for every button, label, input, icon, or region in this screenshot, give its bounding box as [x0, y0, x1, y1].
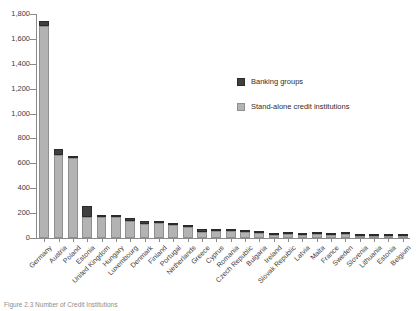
chart-legend: Banking groups Stand-alone credit instit…	[237, 78, 349, 128]
bar-column	[54, 149, 64, 238]
legend-item-banking-groups: Banking groups	[237, 78, 349, 86]
x-axis-tick	[173, 238, 174, 242]
bars-layer	[37, 14, 410, 238]
x-axis-tick	[87, 238, 88, 242]
y-axis-tick-label: 1,400	[2, 60, 30, 68]
bar-segment-banking-groups	[82, 206, 92, 217]
bar-segment-stand-alone	[39, 26, 49, 238]
bar-column	[111, 215, 121, 238]
y-axis-tick	[30, 238, 36, 239]
x-axis-tick	[102, 238, 103, 242]
x-axis-tick	[331, 238, 332, 242]
bar-column	[183, 225, 193, 238]
bar-column	[82, 206, 92, 238]
bar-segment-stand-alone	[140, 224, 150, 238]
x-axis-tick	[388, 238, 389, 242]
x-axis-tick	[145, 238, 146, 242]
x-axis-tick	[345, 238, 346, 242]
bar-segment-stand-alone	[183, 227, 193, 238]
bar-column	[197, 229, 207, 238]
x-axis-tick	[116, 238, 117, 242]
y-axis-tick	[30, 39, 36, 40]
bar-segment-stand-alone	[82, 217, 92, 238]
legend-item-stand-alone-credit-institutions: Stand-alone credit institutions	[237, 103, 349, 111]
y-axis-tick-label: 1,800	[2, 10, 30, 18]
x-axis-tick	[245, 238, 246, 242]
x-axis-tick	[44, 238, 45, 242]
x-axis-tick	[159, 238, 160, 242]
bar-column	[154, 221, 164, 238]
x-axis-tick	[317, 238, 318, 242]
y-axis-tick	[30, 138, 36, 139]
chart-root: 02004006008001,0001,2001,4001,6001,800 G…	[0, 0, 418, 311]
y-axis-labels: 02004006008001,0001,2001,4001,6001,800	[0, 0, 30, 311]
bar-column	[226, 229, 236, 238]
bar-segment-stand-alone	[68, 158, 78, 239]
x-axis-tick	[288, 238, 289, 242]
bar-column	[211, 229, 221, 238]
x-axis-tick	[130, 238, 131, 242]
bar-segment-stand-alone	[168, 225, 178, 238]
x-axis-tick	[259, 238, 260, 242]
bar-column	[39, 21, 49, 238]
bar-column	[68, 156, 78, 239]
y-axis-tick	[30, 64, 36, 65]
x-axis-tick	[202, 238, 203, 242]
x-axis-tick	[360, 238, 361, 242]
y-axis-tick-label: 800	[2, 134, 30, 142]
y-axis-tick-label: 600	[2, 159, 30, 167]
x-axis-tick	[73, 238, 74, 242]
y-axis-tick	[30, 114, 36, 115]
bar-column	[140, 221, 150, 238]
y-axis-tick	[30, 89, 36, 90]
bar-segment-stand-alone	[54, 155, 64, 238]
bar-segment-stand-alone	[111, 217, 121, 238]
x-axis-tick	[403, 238, 404, 242]
bar-segment-stand-alone	[211, 231, 221, 238]
x-axis-tick	[274, 238, 275, 242]
x-axis-line	[36, 238, 410, 239]
legend-label: Banking groups	[251, 78, 303, 86]
x-axis-tick	[302, 238, 303, 242]
legend-label: Stand-alone credit institutions	[251, 103, 349, 111]
y-axis-tick	[30, 14, 36, 15]
y-axis-tick-label: 0	[2, 234, 30, 242]
x-axis-tick	[188, 238, 189, 242]
figure-caption: Figure 2.3 Number of Credit Institutions	[4, 302, 117, 309]
bar-column	[240, 230, 250, 238]
bar-segment-stand-alone	[154, 223, 164, 238]
y-axis-tick	[30, 163, 36, 164]
legend-swatch-icon	[237, 103, 245, 111]
bar-segment-stand-alone	[97, 217, 107, 238]
y-axis-tick-label: 1,600	[2, 35, 30, 43]
legend-swatch-icon	[237, 78, 245, 86]
y-axis-tick-label: 400	[2, 184, 30, 192]
x-axis-tick	[216, 238, 217, 242]
y-axis-tick-label: 1,000	[2, 110, 30, 118]
bar-column	[125, 218, 135, 238]
bar-segment-stand-alone	[125, 221, 135, 238]
x-axis-tick	[231, 238, 232, 242]
y-axis-tick	[30, 213, 36, 214]
x-axis-tick	[374, 238, 375, 242]
bar-column	[254, 231, 264, 238]
y-axis-tick	[30, 188, 36, 189]
x-axis-tick	[59, 238, 60, 242]
y-axis-tick-label: 200	[2, 209, 30, 217]
bar-segment-stand-alone	[226, 231, 236, 238]
bar-column	[168, 223, 178, 238]
bar-column	[97, 215, 107, 238]
y-axis-tick-label: 1,200	[2, 85, 30, 93]
